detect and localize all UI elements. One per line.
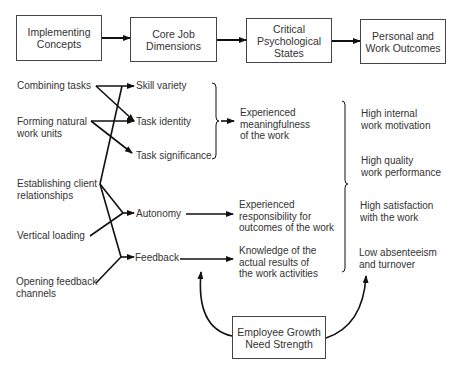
concept-opening-feedback-channels: Opening feedback channels: [16, 276, 97, 299]
state-knowledge-of-results: Knowledge of the actual results of the w…: [239, 245, 318, 280]
outcome-high-internal-motivation: High internal work motivation: [361, 108, 430, 131]
outcome-low-absenteeism: Low absenteeism and turnover: [359, 247, 437, 270]
dimension-task-significance: Task significance: [136, 150, 212, 162]
concept-forming-natural-work-units: Forming natural work units: [17, 116, 87, 139]
outcome-high-satisfaction: High satisfaction with the work: [360, 200, 433, 223]
outcome-high-quality-performance: High quality work performance: [361, 155, 441, 178]
dimension-skill-variety: Skill variety: [136, 80, 187, 92]
moderator-box-growth-need-strength: Employee Growth Need Strength: [232, 316, 326, 359]
dimension-task-identity: Task identity: [136, 116, 191, 128]
dimension-autonomy: Autonomy: [136, 208, 181, 220]
concept-establishing-client-relationships: Establishing client relationships: [17, 178, 97, 201]
header-box-personal-work-outcomes: Personal and Work Outcomes: [360, 19, 446, 64]
header-box-core-job-dimensions: Core Job Dimensions: [130, 17, 217, 62]
dimension-feedback: Feedback: [135, 252, 179, 264]
concept-combining-tasks: Combining tasks: [17, 80, 91, 92]
header-box-critical-psychological-states: Critical Psychological States: [246, 18, 332, 63]
state-experienced-responsibility: Experienced responsibility for outcomes …: [239, 199, 334, 234]
state-experienced-meaningfulness: Experienced meaningfulness of the work: [240, 107, 310, 142]
header-box-implementing-concepts: Implementing Concepts: [16, 15, 102, 61]
concept-vertical-loading: Vertical loading: [17, 230, 85, 242]
